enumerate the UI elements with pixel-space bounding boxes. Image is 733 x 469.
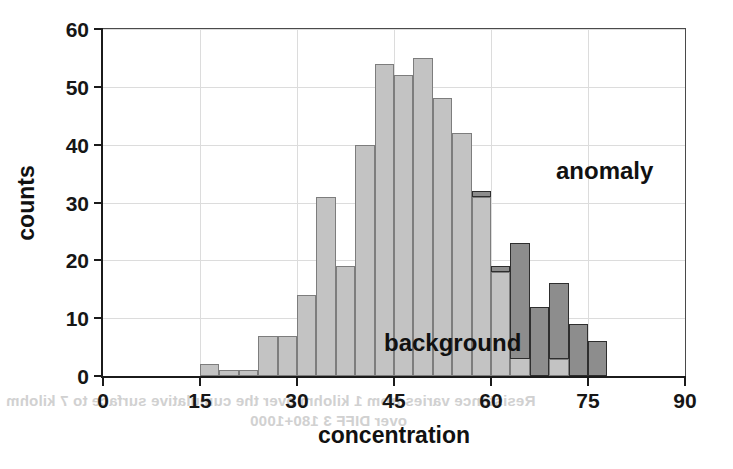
x-axis-tick-label: 60: [479, 390, 502, 411]
y-axis-tick-label: 0: [77, 366, 89, 387]
x-axis-tick-label: 75: [576, 390, 599, 411]
bar-background: [355, 145, 374, 376]
x-axis-tick-label: 30: [285, 390, 308, 411]
y-axis-tick-label: 60: [66, 19, 89, 40]
x-axis-tick: [684, 376, 686, 386]
bleed-through-line-1: Resistance varies from 1 kilohm over the…: [6, 392, 535, 409]
y-axis-tick-label: 20: [66, 250, 89, 271]
bar-anomaly: [569, 324, 588, 376]
bar-anomaly: [588, 341, 607, 376]
y-axis-title: counts: [13, 165, 40, 240]
x-axis-tick-label: 45: [382, 390, 405, 411]
bar-anomaly: [549, 283, 568, 358]
bar-anomaly: [472, 191, 491, 197]
x-axis-tick-label: 15: [188, 390, 211, 411]
annotation-anomaly: anomaly: [556, 157, 653, 185]
y-axis-tick-label: 10: [66, 308, 89, 329]
bar-anomaly: [491, 266, 510, 272]
bar-background: [258, 336, 277, 376]
y-axis-tick: [94, 86, 103, 88]
x-axis-tick: [296, 376, 298, 386]
bar-background: [297, 295, 316, 376]
histogram-figure: Resistance varies from 1 kilohm over the…: [0, 0, 733, 469]
bar-background: [278, 336, 297, 376]
y-axis-tick: [94, 28, 103, 30]
bar-background: [316, 197, 335, 376]
bars-layer: [103, 29, 685, 376]
y-axis-tick-label: 40: [66, 134, 89, 155]
annotation-background: background: [384, 329, 521, 357]
plot-area: anomaly background 010203040506001530456…: [101, 28, 686, 378]
bar-anomaly: [530, 307, 549, 376]
bar-background: [239, 370, 258, 376]
x-axis-tick: [587, 376, 589, 386]
x-axis-title: concentration: [318, 422, 470, 449]
x-axis-tick: [393, 376, 395, 386]
x-axis-tick-label: 90: [673, 390, 696, 411]
bar-background: [200, 364, 219, 376]
bar-background: [219, 370, 238, 376]
x-axis-tick-label: 0: [97, 390, 109, 411]
y-axis-tick: [94, 202, 103, 204]
bar-background: [336, 266, 355, 376]
y-axis-tick: [94, 144, 103, 146]
y-axis-tick: [94, 259, 103, 261]
bar-background: [549, 359, 568, 376]
x-axis-tick: [199, 376, 201, 386]
x-axis-tick: [102, 376, 104, 386]
y-axis-tick-label: 50: [66, 76, 89, 97]
y-axis-tick: [94, 317, 103, 319]
x-axis-tick: [490, 376, 492, 386]
bar-background: [491, 272, 510, 376]
y-axis-tick-label: 30: [66, 192, 89, 213]
